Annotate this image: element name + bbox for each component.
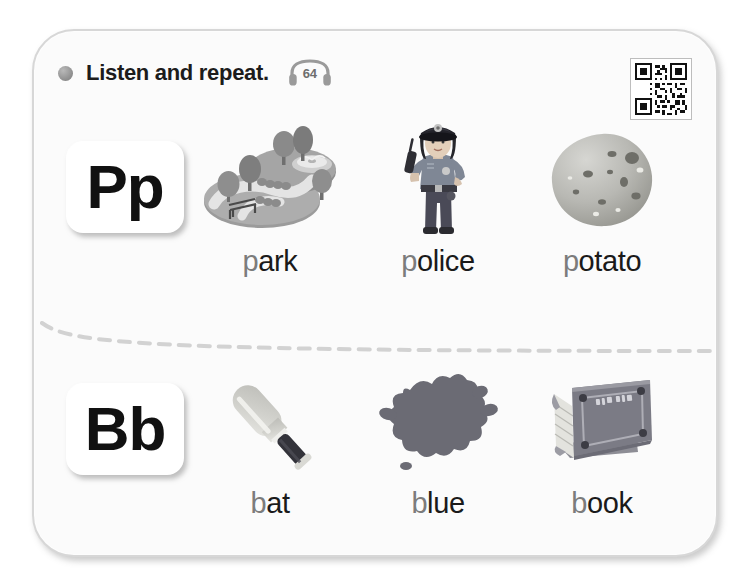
baseball-bat-illustration: [198, 361, 343, 483]
word-label-police: police: [401, 245, 474, 278]
letter-label: Pp: [86, 156, 163, 218]
letter-label: Bb: [85, 398, 166, 460]
word-item-park[interactable]: park: [194, 119, 346, 278]
headphones-icon[interactable]: 64: [288, 59, 332, 87]
word-rest: at: [266, 487, 289, 519]
word-label-book: book: [571, 487, 632, 520]
word-initial: b: [411, 487, 427, 519]
word-label-park: park: [243, 245, 298, 278]
word-initial: b: [571, 487, 587, 519]
word-rest: lue: [427, 487, 465, 519]
letter-row-bb: Bb: [34, 361, 720, 561]
word-initial: b: [250, 487, 266, 519]
word-rest: olice: [417, 245, 475, 277]
activity-panel: Listen and repeat. 64: [32, 29, 718, 557]
park-illustration: [198, 119, 343, 241]
word-label-bat: bat: [250, 487, 289, 520]
paint-splat-illustration: [366, 361, 511, 483]
word-rest: ook: [587, 487, 633, 519]
qr-code-icon[interactable]: [630, 58, 692, 120]
word-item-blue[interactable]: blue: [362, 361, 514, 520]
word-label-potato: potato: [563, 245, 641, 278]
word-item-bat[interactable]: bat: [194, 361, 346, 520]
instruction-header: Listen and repeat. 64: [58, 59, 332, 87]
audio-track-number: 64: [288, 66, 332, 81]
word-cells-pp: park: [192, 119, 720, 278]
page-title: Listen and repeat.: [86, 60, 269, 86]
book-illustration: [530, 361, 675, 483]
word-rest: ark: [258, 245, 297, 277]
word-initial: p: [563, 245, 579, 277]
word-item-police[interactable]: police: [362, 119, 514, 278]
potato-illustration: [530, 119, 675, 241]
word-initial: p: [243, 245, 259, 277]
word-rest: otato: [579, 245, 642, 277]
worksheet-page: Listen and repeat. 64: [0, 0, 751, 579]
bullet-dot-icon: [58, 66, 73, 81]
word-label-blue: blue: [411, 487, 464, 520]
section-divider: [40, 321, 716, 361]
word-cells-bb: bat: [192, 361, 720, 520]
letter-row-pp: Pp: [34, 119, 720, 319]
letter-card-bb[interactable]: Bb: [66, 383, 184, 475]
word-item-book[interactable]: book: [526, 361, 678, 520]
letter-card-pp[interactable]: Pp: [66, 141, 184, 233]
word-initial: p: [401, 245, 417, 277]
word-item-potato[interactable]: potato: [526, 119, 678, 278]
police-officer-illustration: [366, 119, 511, 241]
